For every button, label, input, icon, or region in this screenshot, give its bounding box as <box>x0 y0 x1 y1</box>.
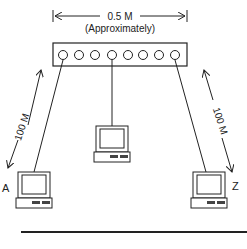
hub-port <box>108 51 117 60</box>
computer-a-icon <box>16 172 52 208</box>
hub-width-note: (Approximately) <box>85 23 155 34</box>
node-left-label: A <box>2 182 10 194</box>
hub-width-label: 0.5 M <box>107 11 132 22</box>
hub-port <box>59 51 68 60</box>
hub-port <box>171 51 180 60</box>
cable-left <box>34 60 63 172</box>
right-cable-label: 100 M <box>211 106 230 136</box>
computer-z-icon <box>191 172 227 208</box>
left-cable-dimension: 100 M <box>7 70 41 168</box>
hub-port <box>91 51 100 60</box>
hub-port <box>75 51 84 60</box>
cable-right <box>175 60 206 172</box>
computer-center-icon <box>94 126 130 162</box>
hub <box>53 43 187 66</box>
left-cable-label: 100 M <box>12 112 31 142</box>
right-cable-dimension: 100 M <box>204 70 232 172</box>
hub-port <box>139 51 148 60</box>
hub-width-dimension: 0.5 M (Approximately) <box>53 10 187 34</box>
hub-port <box>124 51 133 60</box>
node-right-label: Z <box>232 180 239 192</box>
hub-port <box>155 51 164 60</box>
